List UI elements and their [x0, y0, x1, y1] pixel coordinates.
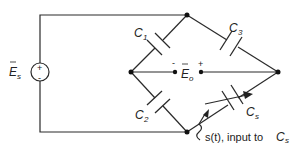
node-top	[185, 13, 190, 18]
c1-label: C 1	[134, 26, 147, 42]
svg-text:2: 2	[143, 115, 149, 124]
eo-minus-sign: -	[172, 58, 175, 68]
voltage-source: + -	[31, 63, 49, 83]
svg-text:C: C	[134, 26, 143, 40]
node-right	[276, 70, 281, 75]
svg-text:o: o	[189, 74, 194, 83]
source-plus-sign: +	[37, 63, 42, 73]
c3-label: C 3	[229, 21, 243, 37]
svg-text:1: 1	[143, 33, 147, 42]
svg-text:s: s	[17, 72, 21, 81]
svg-text:C: C	[246, 105, 255, 119]
capacitor-c2	[131, 72, 187, 132]
eo-plus-terminal	[199, 70, 203, 74]
eo-plus-sign: +	[198, 59, 203, 69]
cs-label: C s	[246, 105, 259, 121]
wire-bottom	[40, 81, 187, 132]
node-bottom	[185, 130, 190, 135]
source-label: E s	[9, 62, 21, 81]
wire-top	[40, 15, 187, 63]
node-left	[129, 70, 134, 75]
svg-text:3: 3	[238, 28, 243, 37]
capacitor-c1	[131, 15, 187, 72]
capacitor-cs	[187, 72, 278, 132]
svg-text:C: C	[276, 130, 285, 144]
bridge-circuit: + - E s C 1 C 3 C 2	[0, 0, 303, 151]
eo-label: E o	[181, 64, 194, 83]
c2-label: C 2	[135, 108, 149, 124]
source-minus-sign: -	[38, 73, 41, 83]
svg-text:C: C	[229, 21, 238, 35]
svg-text:s: s	[255, 112, 259, 121]
svg-text:s: s	[285, 136, 289, 145]
svg-text:C: C	[135, 108, 144, 122]
svg-text:s(t), input to: s(t), input to	[205, 131, 263, 143]
input-annotation: s(t), input to C s	[205, 130, 289, 145]
eo-minus-terminal	[173, 70, 177, 74]
